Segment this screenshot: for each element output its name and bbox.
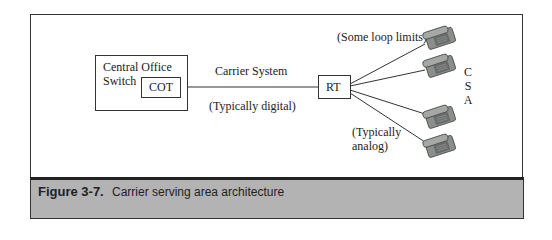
cot-label: COT [149,80,173,94]
switch-label: Switch [103,74,136,88]
csa-letter-c: C [462,65,474,79]
typically-analog-label: (Typically [352,125,401,139]
csa-letter-s: S [462,79,474,93]
telephone-icon [420,132,460,158]
telephone-icon [420,24,460,50]
carrier-system-label: Carrier System [215,64,287,78]
central-office-label: Central Office [103,60,172,74]
loop-limits-label: (Some loop limits) [337,30,427,44]
csa-label: C S A [462,65,474,107]
typically-digital-label: (Typically digital) [209,99,296,113]
rt-label: RT [326,80,341,94]
telephone-icon [420,103,460,129]
typically-analog-label-2: analog) [352,139,388,153]
csa-letter-a: A [462,93,474,107]
figure-number: Figure 3-7. [38,184,104,199]
telephone-icon [420,52,460,78]
figure-caption-text: Carrier serving area architecture [112,185,284,199]
